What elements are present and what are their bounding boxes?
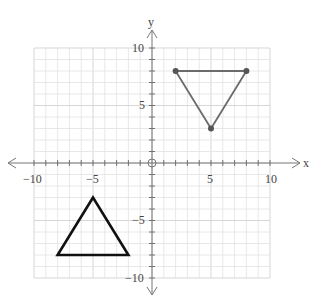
x-tick-label-5: 5 — [207, 172, 213, 186]
axis-labels: x y −10 −5 5 10 10 5 −5 −10 — [23, 15, 309, 285]
y-axis-label: y — [148, 15, 154, 29]
x-axis-label: x — [303, 156, 309, 170]
x-tick-label-neg5: −5 — [86, 172, 99, 186]
y-tick-label-neg10: −10 — [125, 271, 144, 285]
x-tick-label-10: 10 — [265, 172, 277, 186]
vertex-dot — [243, 68, 249, 74]
vertex-dot — [208, 126, 214, 132]
y-tick-label-5: 5 — [139, 98, 145, 112]
y-tick-label-10: 10 — [132, 41, 144, 55]
x-tick-label-neg10: −10 — [23, 172, 42, 186]
coordinate-plane: x y −10 −5 5 10 10 5 −5 −10 — [0, 0, 313, 306]
vertex-dot — [173, 68, 179, 74]
y-tick-label-neg5: −5 — [132, 213, 145, 227]
